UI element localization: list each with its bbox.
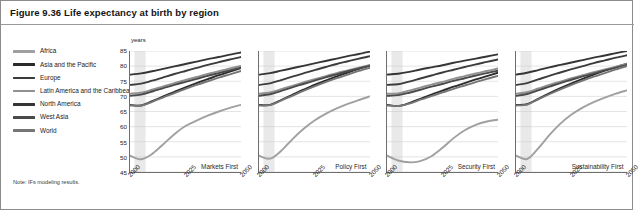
legend-item-label: World (40, 128, 57, 134)
series-line (516, 90, 627, 159)
y-axis-tick-label: 80 (120, 63, 127, 69)
legend-item: North America (13, 98, 125, 111)
legend-swatch-icon (13, 116, 35, 119)
plot-area: Policy First (258, 51, 370, 173)
legend-item-label: Europe (40, 75, 61, 81)
chart-legend: AfricaAsia and the PacificEuropeLatin Am… (13, 45, 125, 137)
legend-item: West Asia (13, 111, 125, 124)
title-divider (1, 24, 634, 25)
plot-area: Markets First (129, 51, 241, 173)
legend-swatch-icon (13, 50, 35, 53)
y-axis-tick-label: 70 (120, 94, 127, 100)
series-line (130, 68, 241, 106)
series-line (259, 68, 370, 106)
legend-item-label: Africa (40, 48, 56, 54)
y-axis-labels: 858075706560555045 (114, 51, 128, 173)
figure-note: Note: IFs modeling results. (13, 179, 80, 185)
legend-swatch-icon (13, 77, 35, 80)
legend-swatch-icon (13, 129, 35, 132)
x-axis-labels: 200020252050 (386, 174, 498, 204)
y-axis-tick-label: 65 (120, 109, 127, 115)
chart-panel: years858075706560555045Markets First2000… (129, 37, 241, 207)
y-axis-tick-label: 55 (120, 139, 127, 145)
legend-item: Latin America and the Caribbean (13, 85, 125, 98)
legend-swatch-icon (13, 103, 35, 106)
legend-item: Africa (13, 45, 125, 58)
chart-panel: Policy First200020252050 (258, 37, 370, 207)
y-axis-units-label: years (131, 37, 146, 43)
figure-title-bar: Figure 9.36 Life expectancy at birth by … (1, 1, 634, 25)
x-axis-tick-label: 2050 (368, 164, 383, 179)
legend-item-label: West Asia (40, 114, 68, 120)
x-axis-tick-label: 2050 (239, 164, 254, 179)
series-line (387, 73, 498, 106)
x-axis-labels: 200020252050 (129, 174, 241, 204)
series-line (387, 120, 498, 163)
chart-panels: years858075706560555045Markets First2000… (129, 37, 627, 207)
chart-panel: Sustainability First200020252050 (515, 37, 627, 207)
y-axis-tick-label: 85 (120, 48, 127, 54)
legend-swatch-icon (13, 63, 35, 66)
legend-item-label: North America (40, 101, 81, 107)
y-axis-tick-label: 75 (120, 78, 127, 84)
legend-item: World (13, 124, 125, 137)
series-line (259, 96, 370, 158)
series-line (130, 105, 241, 159)
x-axis-labels: 200020252050 (515, 174, 627, 204)
y-axis-tick-label: 50 (120, 155, 127, 161)
series-line (130, 71, 241, 106)
x-axis-labels: 200020252050 (258, 174, 370, 204)
plot-area: Security First (386, 51, 498, 173)
legend-item: Europe (13, 71, 125, 84)
chart-panel: Security First200020252050 (386, 37, 498, 207)
scenario-label: Markets First (201, 163, 238, 170)
legend-item-label: Asia and the Pacific (40, 62, 96, 68)
page-title: Figure 9.36 Life expectancy at birth by … (10, 7, 219, 18)
scenario-label: Security First (458, 163, 495, 170)
plot-area: Sustainability First (515, 51, 627, 173)
legend-item: Asia and the Pacific (13, 58, 125, 71)
x-axis-tick-label: 2050 (496, 164, 511, 179)
legend-swatch-icon (13, 90, 35, 93)
scenario-label: Policy First (335, 163, 366, 170)
y-axis-tick-label: 60 (120, 124, 127, 130)
x-axis-tick-label: 2050 (625, 164, 639, 179)
